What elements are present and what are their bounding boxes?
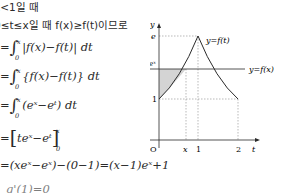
svg-text:y: y bbox=[150, 20, 155, 29]
svg-text:1: 1 bbox=[152, 95, 157, 104]
function-graph: y e eˣ 1 O x 1 2 t y=f(t) y=f(x) bbox=[150, 18, 283, 178]
partial-next-line: g'(1)=0 bbox=[6, 182, 50, 193]
svg-text:e: e bbox=[151, 32, 156, 41]
svg-text:eˣ: eˣ bbox=[150, 60, 156, 68]
case-heading: x<1일 때 bbox=[0, 0, 39, 14]
svg-text:y=f(t): y=f(t) bbox=[205, 36, 230, 45]
t-axis-arrow-icon bbox=[255, 138, 260, 142]
integral-step-3: =∫x0 (eˣ−eᵗ) dt bbox=[0, 96, 77, 112]
svg-text:1: 1 bbox=[196, 145, 201, 154]
evaluation-step: =(xeˣ−eˣ)−(0−1)=(x−1)eˣ+1 bbox=[0, 158, 169, 172]
integral-step-2: =∫x0 {f(x)−f(t)} dt bbox=[0, 67, 100, 83]
y-axis-arrow-icon bbox=[157, 23, 161, 28]
integral-step-1: =∫x0 |f(x)−f(t)| dt bbox=[0, 38, 93, 54]
svg-text:y=f(x): y=f(x) bbox=[248, 65, 274, 74]
antiderivative-step: =[teˣ−eᵗ]x0 bbox=[0, 128, 59, 145]
svg-text:O: O bbox=[150, 145, 157, 154]
dashed-guides bbox=[159, 36, 238, 140]
curve-f-t bbox=[159, 36, 238, 99]
svg-text:x: x bbox=[183, 145, 188, 154]
svg-text:t: t bbox=[252, 145, 256, 154]
condition-text: 0≤t≤x일 때 f(x)≥f(t)이므로 bbox=[0, 18, 128, 32]
svg-text:2: 2 bbox=[236, 145, 241, 154]
